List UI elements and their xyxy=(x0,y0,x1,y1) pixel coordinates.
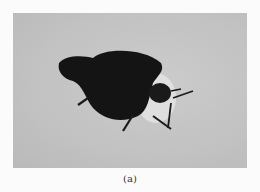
figure-photo xyxy=(13,13,247,168)
figure-caption: (a) xyxy=(0,173,260,184)
beetle-image xyxy=(13,13,247,168)
